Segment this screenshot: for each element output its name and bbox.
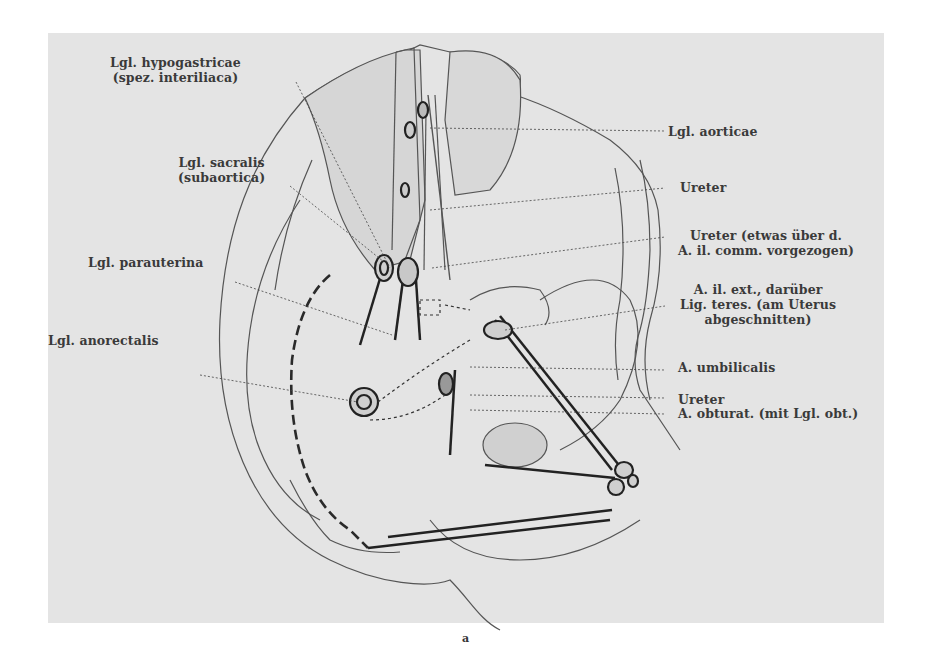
figure-caption: a bbox=[462, 632, 469, 645]
leader-ureter-ilcomm bbox=[432, 237, 665, 268]
label-line: Lgl. parauterina bbox=[88, 255, 203, 270]
lower-contour bbox=[290, 480, 400, 553]
label-a-umbilicalis: A. umbilicalis bbox=[678, 360, 775, 375]
label-line: Lgl. aorticae bbox=[668, 124, 758, 139]
label-lgl-anorectalis: Lgl. anorectalis bbox=[48, 333, 159, 348]
pathway-2 bbox=[485, 465, 615, 478]
sacrum-right bbox=[445, 51, 521, 195]
pelvis-anatomy-drawing bbox=[0, 0, 932, 661]
right-iliac bbox=[635, 160, 680, 450]
label-line: Lgl. anorectalis bbox=[48, 333, 159, 348]
label-ureter-ilcomm: Ureter (etwas über d. A. il. comm. vorge… bbox=[678, 228, 854, 258]
label-line: Lig. teres. (am Uterus bbox=[680, 297, 836, 312]
node-ureter bbox=[439, 373, 453, 395]
sacrum bbox=[305, 50, 425, 270]
label-line: A. obturat. (mit Lgl. obt.) bbox=[678, 406, 858, 421]
label-line: Ureter bbox=[680, 180, 726, 195]
label-line: (subaortica) bbox=[178, 170, 265, 185]
label-ureter-upper: Ureter bbox=[680, 180, 726, 195]
label-line: Ureter bbox=[678, 392, 724, 407]
label-ureter-lower: Ureter bbox=[678, 392, 724, 407]
label-a-obturat: A. obturat. (mit Lgl. obt.) bbox=[678, 406, 858, 421]
label-line: A. umbilicalis bbox=[678, 360, 775, 375]
pubic-region bbox=[540, 280, 638, 450]
label-a-il-ext: A. il. ext., darüber Lig. teres. (am Ute… bbox=[680, 282, 836, 327]
label-line: A. il. ext., darüber bbox=[680, 282, 836, 297]
label-line: Lgl. hypogastricae bbox=[110, 55, 241, 70]
node-obturat-2 bbox=[608, 479, 624, 495]
label-lgl-parauterina: Lgl. parauterina bbox=[88, 255, 203, 270]
bladder bbox=[483, 423, 547, 467]
label-line: (spez. interiliaca) bbox=[110, 70, 241, 85]
label-line: Ureter (etwas über d. bbox=[678, 228, 854, 243]
node-il-ext bbox=[484, 321, 512, 339]
label-lgl-aorticae: Lgl. aorticae bbox=[668, 124, 758, 139]
label-lgl-sacralis: Lgl. sacralis (subaortica) bbox=[178, 155, 265, 185]
node-aortic bbox=[418, 102, 428, 118]
label-line: abgeschnitten) bbox=[680, 312, 836, 327]
leader-parauterina bbox=[235, 282, 392, 335]
label-line: A. il. comm. vorgezogen) bbox=[678, 243, 854, 258]
leader-ureter-lower bbox=[470, 395, 665, 398]
label-lgl-hypogastricae: Lgl. hypogastricae (spez. interiliaca) bbox=[110, 55, 241, 85]
label-line: Lgl. sacralis bbox=[178, 155, 265, 170]
